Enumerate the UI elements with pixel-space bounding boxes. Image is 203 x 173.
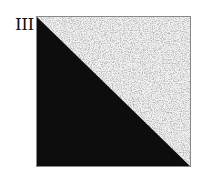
panel-label: III <box>15 15 34 33</box>
split-square-graphic <box>37 17 191 167</box>
diagonal-split-square <box>36 16 191 167</box>
